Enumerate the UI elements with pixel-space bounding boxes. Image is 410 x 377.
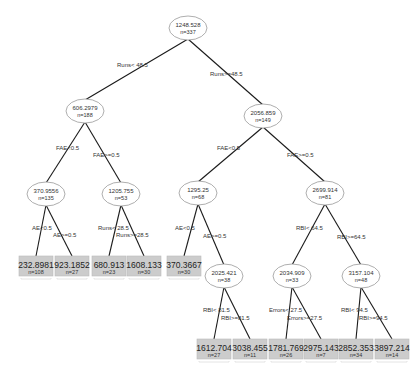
leaf-node: 370.3667n=30 <box>166 256 202 279</box>
node-count: n=337 <box>180 29 195 35</box>
tree-edge <box>361 287 392 339</box>
node-value: 1248.528 <box>175 22 201 28</box>
split-node: 2056.859n=149 <box>244 104 282 128</box>
node-ellipse <box>66 99 104 123</box>
node-count: n=135 <box>38 195 53 201</box>
split-node: 370.9556n=135 <box>27 182 65 206</box>
node-count: n=149 <box>255 117 270 123</box>
node-value: 2034.909 <box>279 270 305 276</box>
leaf-node: 1612.704n=27 <box>196 339 232 362</box>
split-condition-label: AE>=0.5 <box>53 232 77 238</box>
node-ellipse <box>179 181 217 205</box>
node-value: 370.9556 <box>33 188 59 194</box>
split-node: 1248.528n=337 <box>169 16 207 40</box>
node-value: 3157.104 <box>348 270 374 276</box>
split-condition-label: RBI< 81.5 <box>203 307 231 313</box>
node-count: n=38 <box>218 277 230 283</box>
tree-edge <box>46 122 85 183</box>
node-ellipse <box>244 104 282 128</box>
node-value: 1295.25 <box>187 187 209 193</box>
node-count: n=68 <box>192 194 204 200</box>
leaf-count: n=30 <box>138 269 150 275</box>
leaf-bracket <box>341 361 371 362</box>
split-condition-label: Runs>=48.5 <box>210 71 243 77</box>
node-count: n=48 <box>355 277 367 283</box>
leaf-count: n=27 <box>208 352 220 358</box>
split-node: 2699.914n=81 <box>306 181 344 205</box>
leaf-node: 1781.769n=26 <box>268 339 304 362</box>
leaf-count: n=11 <box>244 352 256 358</box>
node-ellipse <box>306 181 344 205</box>
split-node: 1205.755n=53 <box>102 182 140 206</box>
leaf-bracket <box>235 361 265 362</box>
node-count: n=33 <box>286 277 298 283</box>
leaf-bracket <box>169 278 199 279</box>
leaf-count: n=34 <box>350 352 362 358</box>
split-condition-label: RBI< 94.5 <box>341 307 369 313</box>
node-value: 2025.421 <box>211 270 237 276</box>
tree-edge <box>224 287 250 339</box>
split-condition-label: AE<0.5 <box>32 225 53 231</box>
split-condition-label: RBI< 64.5 <box>296 225 324 231</box>
leaf-node: 923.1852n=27 <box>54 256 90 279</box>
leaf-node: 680.913n=23 <box>92 256 126 279</box>
node-ellipse <box>342 264 380 288</box>
split-condition-label: Errors< 27.5 <box>269 307 303 313</box>
node-count: n=188 <box>77 112 92 118</box>
split-condition-label: RBI>=94.5 <box>359 315 388 321</box>
leaf-bracket <box>271 361 301 362</box>
leaf-bracket <box>94 278 124 279</box>
split-condition-label: Runs< 28.5 <box>98 225 130 231</box>
tree-edge <box>85 39 188 100</box>
split-node: 2034.909n=33 <box>273 264 311 288</box>
node-count: n=53 <box>115 195 127 201</box>
leaf-node: 2852.353n=34 <box>338 339 374 362</box>
node-value: 606.2979 <box>72 105 98 111</box>
leaf-count: n=7 <box>316 352 325 358</box>
split-condition-label: Runs>=28.5 <box>116 232 149 238</box>
node-value: 1205.755 <box>108 188 134 194</box>
leaf-count: n=30 <box>178 269 190 275</box>
leaf-node: 3038.455n=11 <box>232 339 268 362</box>
split-node: 3157.104n=48 <box>342 264 380 288</box>
split-condition-label: FAE<0.5 <box>56 145 80 151</box>
regression-tree-diagram: Runs< 48.5Runs>=48.5FAE<0.5FAE>=0.5FAE<0… <box>0 0 410 377</box>
split-condition-label: FAE<0.5 <box>217 145 241 151</box>
split-condition-label: Errors>=27.5 <box>287 315 323 321</box>
leaf-node: 1608.133n=30 <box>126 256 162 279</box>
tree-edge <box>356 287 361 339</box>
leaf-count: n=108 <box>28 269 43 275</box>
split-condition-label: RBI>=81.5 <box>221 315 250 321</box>
leaf-bracket <box>377 361 407 362</box>
node-count: n=81 <box>319 194 331 200</box>
split-condition-label: Runs< 48.5 <box>117 62 149 68</box>
split-node: 1295.25n=68 <box>179 181 217 205</box>
leaf-bracket <box>129 278 159 279</box>
split-condition-label: AE>=0.5 <box>203 233 227 239</box>
split-condition-label: AE<0.5 <box>175 225 196 231</box>
leaf-node: 2975.143n=7 <box>303 339 339 362</box>
split-node: 606.2979n=188 <box>66 99 104 123</box>
leaf-bracket <box>199 361 229 362</box>
tree-edge <box>214 287 224 339</box>
leaf-bracket <box>306 361 336 362</box>
split-node: 2025.421n=38 <box>205 264 243 288</box>
leaf-count: n=27 <box>66 269 78 275</box>
leaf-bracket <box>21 278 51 279</box>
leaf-node: 232.8981n=108 <box>18 256 54 279</box>
leaf-count: n=14 <box>386 352 398 358</box>
leaf-bracket <box>57 278 87 279</box>
node-value: 2699.914 <box>312 187 338 193</box>
node-ellipse <box>169 16 207 40</box>
tree-edge <box>292 204 325 265</box>
split-condition-label: FAE>=0.5 <box>93 152 120 158</box>
tree-edge <box>198 127 263 182</box>
tree-edge <box>286 287 292 339</box>
tree-edge <box>292 287 321 339</box>
split-condition-label: FAE>=0.5 <box>287 152 314 158</box>
node-value: 2056.859 <box>250 110 276 116</box>
split-condition-label: RBI>=64.5 <box>337 234 366 240</box>
leaf-count: n=23 <box>103 269 115 275</box>
node-ellipse <box>273 264 311 288</box>
node-ellipse <box>205 264 243 288</box>
